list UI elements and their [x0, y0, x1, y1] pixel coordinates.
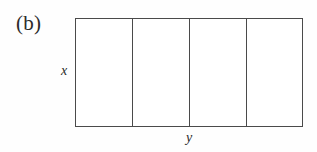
divider-line-1: [132, 18, 133, 127]
diagram-canvas: x y: [0, 0, 317, 152]
height-dimension-label: x: [57, 63, 71, 79]
figure-screenshot: (b) x y: [0, 0, 317, 152]
divider-line-3: [246, 18, 247, 127]
divider-line-2: [189, 18, 190, 127]
width-dimension-label: y: [182, 130, 196, 146]
